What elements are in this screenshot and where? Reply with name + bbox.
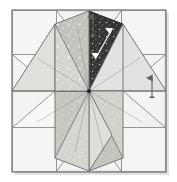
- pressing-arrow-top-tail: [91, 34, 96, 36]
- star-center-point: [87, 89, 91, 93]
- diamond-sw: [55, 91, 89, 171]
- quilt-block-svg: [0, 0, 177, 182]
- diamond-nw: [55, 11, 89, 91]
- corner-square-se: [121, 127, 165, 171]
- pressing-arrow-right-tail: [150, 96, 155, 98]
- quilt-diagram-figure: Eight-pointed star quilt block piecing d…: [0, 0, 177, 182]
- diamond-nw-texture: [55, 11, 89, 91]
- corner-square-sw: [13, 127, 57, 171]
